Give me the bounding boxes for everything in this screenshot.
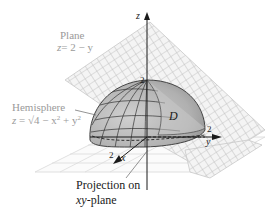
plane-equation: z= 2 − y bbox=[57, 42, 93, 53]
projection-label-xy: xy bbox=[76, 193, 87, 207]
projection-label-line1: Projection on bbox=[76, 179, 140, 191]
projection-label-rest: -plane bbox=[87, 193, 117, 207]
hemisphere-label: Hemisphere bbox=[12, 102, 65, 113]
hemisphere-equation-sup2: 2 bbox=[77, 114, 81, 122]
y-axis-label: y bbox=[206, 137, 210, 147]
hemisphere-equation: z = √4 − x2 + y2 bbox=[12, 115, 81, 126]
plane-label: Plane bbox=[60, 30, 84, 41]
hemisphere-equation-part1: = √4 − x bbox=[16, 114, 56, 126]
z-axis-tick-2: 2 bbox=[140, 76, 145, 85]
x-axis-label: x bbox=[121, 153, 125, 163]
region-d-label: D bbox=[169, 110, 178, 122]
z-axis-arrow-icon bbox=[144, 12, 150, 20]
z-axis-label: z bbox=[136, 11, 140, 21]
projection-label-line2: xy-plane bbox=[76, 194, 117, 206]
x-axis-tick-2: 2 bbox=[109, 151, 114, 160]
hemisphere-equation-part2: + y bbox=[60, 114, 77, 126]
y-axis-tick-2: 2 bbox=[207, 125, 212, 134]
plane-equation-rhs: = 2 − y bbox=[61, 41, 93, 53]
